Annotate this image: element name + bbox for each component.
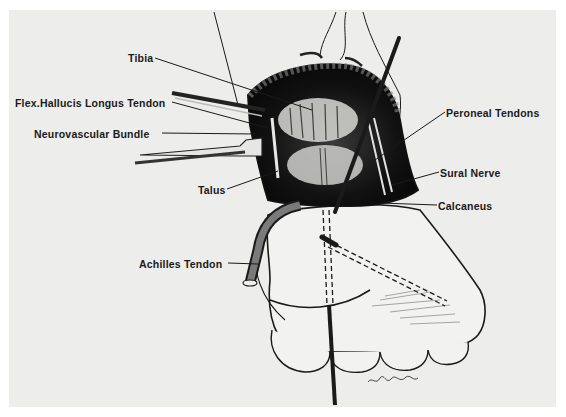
label-sural-nerve: Sural Nerve: [440, 167, 501, 179]
label-achilles-tendon: Achilles Tendon: [139, 258, 222, 270]
label-calcaneus: Calcaneus: [438, 200, 492, 212]
label-tibia: Tibia: [128, 52, 153, 64]
label-neurovascular-bundle: Neurovascular Bundle: [34, 128, 149, 140]
heel-foot: [267, 205, 485, 353]
tibia-surface: [278, 98, 358, 142]
artist-signature: [368, 376, 418, 382]
label-peroneal-tendons: Peroneal Tendons: [446, 107, 539, 119]
label-talus: Talus: [198, 184, 226, 196]
label-flex-hallucis-longus-tendon: Flex.Hallucis Longus Tendon: [15, 97, 165, 109]
